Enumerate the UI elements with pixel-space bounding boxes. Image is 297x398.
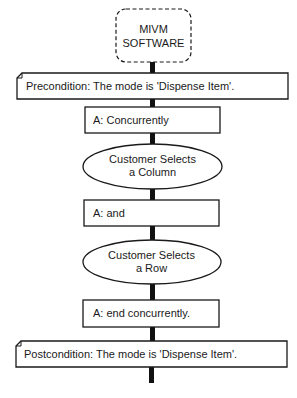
action-text-concurrently: A: Concurrently: [93, 114, 169, 127]
action-text-and: A: and: [93, 207, 125, 220]
activity-text-select-row: Customer Selects a Row: [82, 249, 221, 275]
action-text-end-concurrently: A: end concurrently.: [93, 307, 190, 320]
connector-precondition-to-concurrently: [150, 99, 155, 107]
connector-postcondition-out: [149, 367, 154, 383]
activity-text-select-row-line2: a Row: [82, 262, 221, 275]
activity-diagram: MIVM SOFTWARE Precondition: The mode is …: [0, 0, 297, 398]
activity-text-select-column-line2: a Column: [83, 166, 222, 179]
system-label: MIVM SOFTWARE: [115, 22, 192, 50]
activity-text-select-column: Customer Selects a Column: [83, 153, 222, 179]
precondition-text: Precondition: The mode is 'Dispense Item…: [26, 80, 234, 93]
activity-text-select-column-line1: Customer Selects: [83, 153, 222, 166]
connector-select-column-to-and: [150, 189, 155, 200]
diagram-shapes: [0, 0, 297, 398]
connector-end-concurrently-to-postcondition: [150, 327, 155, 341]
connector-select-row-to-end-concurrently: [150, 284, 155, 300]
system-label-line1: MIVM: [115, 22, 192, 36]
postcondition-text: Postcondition: The mode is 'Dispense Ite…: [24, 348, 237, 361]
connector-and-to-select-row: [150, 226, 155, 240]
connector-concurrently-to-select-column: [150, 133, 155, 144]
activity-text-select-row-line1: Customer Selects: [82, 249, 221, 262]
connector-system-to-precondition: [150, 62, 155, 73]
system-label-line2: SOFTWARE: [115, 36, 192, 50]
